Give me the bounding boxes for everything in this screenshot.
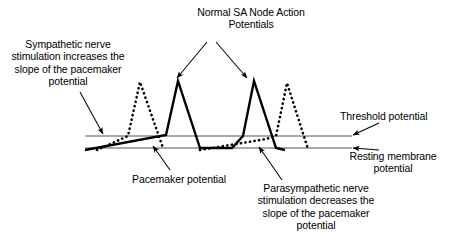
sa-node-action-potential-diagram: Normal SA Node Action Potentials Sympath… [0, 0, 453, 245]
threshold-callout-leader [353, 123, 379, 135]
pacemaker-potential-label: Pacemaker potential [108, 173, 250, 185]
title-callout-left-leader [177, 42, 207, 78]
sympathetic-stimulation-trace [97, 82, 163, 150]
parasympathetic-callout-leader [259, 147, 282, 180]
pacemaker-callout-leader [153, 146, 170, 170]
threshold-potential-label: Threshold potential [340, 110, 452, 122]
sympathetic-nerve-stimulation-label: Sympathetic nerve stimulation increases … [4, 38, 132, 88]
sympathetic-callout-leader [80, 92, 103, 134]
title-callout-right-leader [216, 42, 247, 78]
parasympathetic-nerve-stimulation-label: Parasympathetic nerve stimulation decrea… [242, 182, 390, 232]
title-label: Normal SA Node Action Potentials [176, 6, 326, 31]
resting-membrane-potential-label: Resting membrane potential [334, 150, 452, 175]
parasympathetic-stimulation-trace [200, 83, 308, 150]
